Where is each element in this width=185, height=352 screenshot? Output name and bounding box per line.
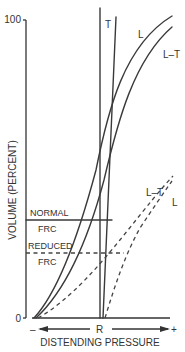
lt-solid-curve	[36, 27, 172, 318]
x-minus-sign: –	[30, 324, 36, 335]
x-plus-sign: +	[171, 324, 177, 335]
y-axis-label: VOLUME (PERCENT)	[7, 140, 18, 239]
reduced-frc-label-2: FRC	[38, 257, 57, 267]
l-dashed-label: L	[172, 197, 178, 208]
normal-frc-label-2: FRC	[38, 224, 57, 234]
pressure-volume-diagram: 100 0 VOLUME (PERCENT) T L L–T L–T L NOR…	[0, 0, 185, 352]
right-arrow-icon	[160, 326, 170, 332]
t-curve	[103, 17, 116, 318]
l-solid-label: L	[138, 29, 144, 40]
x-axis-label: DISTENDING PRESSURE	[40, 337, 160, 348]
l-solid-curve	[34, 16, 172, 318]
x-center-r: R	[96, 324, 103, 335]
l-dashed-curve	[105, 181, 172, 318]
lt-dashed-label: L–T	[146, 187, 163, 198]
left-arrow-icon	[38, 326, 48, 332]
t-label: T	[105, 19, 111, 30]
normal-frc-label: NORMAL	[30, 208, 69, 218]
y-tick-label-0: 0	[15, 313, 21, 324]
lt-solid-label: L–T	[163, 49, 180, 60]
reduced-frc-label: REDUCED	[28, 241, 73, 251]
y-tick-label-100: 100	[4, 14, 21, 25]
